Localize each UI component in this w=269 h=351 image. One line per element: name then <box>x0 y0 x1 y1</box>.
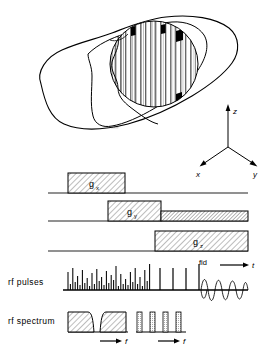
fid-label: fid <box>199 258 207 267</box>
axis-label-z: z <box>232 107 237 116</box>
rf-spectrum-block-right <box>100 312 126 332</box>
axis-label-x: x <box>195 170 201 179</box>
head-outline-with-slice-columns <box>40 16 238 129</box>
rf-spectrum-row-label: rf spectrum <box>8 316 55 326</box>
gz-label: g <box>193 237 198 247</box>
gx-label: g <box>89 179 94 189</box>
frequency-axis-arrow-right <box>158 338 180 343</box>
coordinate-axes: z x y <box>195 104 258 179</box>
frequency-axis-label-right: f <box>183 337 186 346</box>
time-axis-label: t <box>252 261 255 270</box>
time-axis-arrow <box>220 262 249 267</box>
rf-spectrum-row: rf spectrum f f <box>8 312 186 346</box>
gy-pulse-block-readout <box>161 211 248 221</box>
nmr-pulse-sequence-figure: z x y g x g y g z rf pulses <box>0 0 269 351</box>
rf-isolated-pulses <box>160 264 199 290</box>
rf-pulse-comb <box>68 264 150 290</box>
gradient-row-gz: g z <box>48 231 248 251</box>
gx-label-subscript: x <box>96 185 99 191</box>
axis-label-y: y <box>252 170 258 179</box>
rf-pulses-row: rf pulses <box>8 258 255 301</box>
fid-waveform-tail <box>201 290 207 298</box>
frequency-axis-arrow-left <box>100 338 122 343</box>
frequency-axis-label-left: f <box>125 337 128 346</box>
rf-pulses-row-label: rf pulses <box>8 277 44 287</box>
rf-spectrum-comb-spikes <box>137 312 181 332</box>
gy-label: g <box>127 207 132 217</box>
gz-label-subscript: z <box>200 243 203 249</box>
rf-spectrum-block-left <box>68 312 94 332</box>
gy-label-subscript: y <box>134 213 137 219</box>
gradient-row-gy: g y <box>48 201 248 221</box>
gradient-row-gx: g x <box>48 173 248 193</box>
